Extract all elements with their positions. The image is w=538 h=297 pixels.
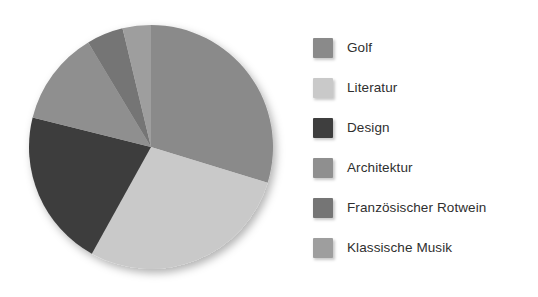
legend-item-label: Design (347, 120, 390, 136)
pie-chart-svg (0, 0, 300, 297)
legend-swatch-icon (313, 78, 333, 98)
legend-swatch-icon (313, 38, 333, 58)
legend-swatch-icon (313, 118, 333, 138)
legend-swatch-icon (313, 238, 333, 258)
legend-item-label: Klassische Musik (347, 240, 452, 256)
legend-item-architektur[interactable]: Architektur (313, 148, 535, 188)
pie-chart-plot-area (0, 0, 300, 297)
legend-item-franzoesischer-rotwein[interactable]: Französischer Rotwein (313, 188, 535, 228)
legend-item-label: Literatur (347, 80, 397, 96)
legend-item-label: Architektur (347, 160, 413, 176)
legend-item-label: Französischer Rotwein (347, 200, 486, 216)
pie-slice-group (29, 25, 273, 269)
pie-chart-figure: Golf Literatur Design Architektur Franzö… (0, 0, 538, 297)
legend-item-golf[interactable]: Golf (313, 28, 535, 68)
legend-item-klassische-musik[interactable]: Klassische Musik (313, 228, 535, 268)
legend-swatch-icon (313, 198, 333, 218)
legend-item-design[interactable]: Design (313, 108, 535, 148)
legend-swatch-icon (313, 158, 333, 178)
chart-legend: Golf Literatur Design Architektur Franzö… (313, 28, 535, 268)
legend-item-literatur[interactable]: Literatur (313, 68, 535, 108)
legend-item-label: Golf (347, 40, 372, 56)
